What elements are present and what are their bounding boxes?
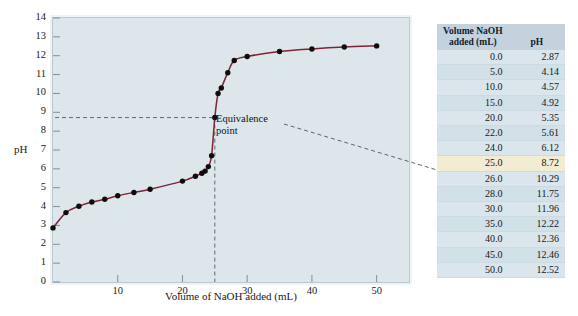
table-row: 0.02.87 (437, 50, 565, 65)
annotation-line-1: Equivalence (216, 113, 268, 125)
cell-volume: 45.0 (437, 247, 509, 262)
table-row: 35.012.22 (437, 217, 565, 232)
cell-volume: 0.0 (437, 50, 509, 65)
table-header-row: Volume NaOH added (mL) pH (437, 24, 565, 50)
cell-volume: 40.0 (437, 232, 509, 247)
cell-volume: 50.0 (437, 262, 509, 277)
table-row: 24.06.12 (437, 141, 565, 156)
x-tick-label: 30 (232, 285, 262, 296)
table-row: 25.08.72 (437, 156, 565, 171)
table-row: 28.011.75 (437, 186, 565, 201)
y-tick-label: 9 (20, 105, 46, 116)
cell-ph: 4.92 (509, 95, 565, 110)
cell-volume: 24.0 (437, 141, 509, 156)
table-row: 15.04.92 (437, 95, 565, 110)
table-row: 30.011.96 (437, 202, 565, 217)
cell-volume: 5.0 (437, 65, 509, 80)
y-tick-label: 0 (20, 275, 46, 286)
table-body: 0.02.875.04.1410.04.5715.04.9220.05.3522… (437, 50, 565, 278)
data-table-container: Volume NaOH added (mL) pH 0.02.875.04.14… (437, 24, 565, 278)
cell-volume: 35.0 (437, 217, 509, 232)
table-row: 22.05.61 (437, 126, 565, 141)
cell-volume: 30.0 (437, 202, 509, 217)
cell-volume: 28.0 (437, 186, 509, 201)
y-tick-label: 7 (20, 143, 46, 154)
y-tick-label: 6 (20, 162, 46, 173)
table-row: 5.04.14 (437, 65, 565, 80)
y-tick-label: 3 (20, 218, 46, 229)
y-tick-label: 14 (20, 11, 46, 22)
y-tick-label: 8 (20, 124, 46, 135)
titration-figure: pH Volume of NaOH added (mL) 01234567891… (0, 0, 578, 316)
y-tick-label: 11 (20, 68, 46, 79)
y-tick-label: 12 (20, 49, 46, 60)
y-tick-label: 5 (20, 181, 46, 192)
cell-ph: 12.36 (509, 232, 565, 247)
table-row: 10.04.57 (437, 80, 565, 95)
cell-volume: 22.0 (437, 126, 509, 141)
cell-volume: 10.0 (437, 80, 509, 95)
y-tick-label: 10 (20, 86, 46, 97)
cell-ph: 12.22 (509, 217, 565, 232)
chart-area: pH Volume of NaOH added (mL) 01234567891… (0, 0, 420, 316)
x-tick-label: 40 (297, 285, 327, 296)
cell-ph: 5.35 (509, 110, 565, 125)
cell-ph: 5.61 (509, 126, 565, 141)
table-row: 40.012.36 (437, 232, 565, 247)
column-header-volume-line2: added (mL) (441, 37, 505, 48)
cell-ph: 8.72 (509, 156, 565, 171)
cell-ph: 12.52 (509, 262, 565, 277)
titration-data-table: Volume NaOH added (mL) pH 0.02.875.04.14… (437, 24, 565, 278)
cell-ph: 12.46 (509, 247, 565, 262)
equivalence-point-annotation: Equivalence point (216, 113, 268, 137)
cell-volume: 26.0 (437, 171, 509, 186)
table-row: 26.010.29 (437, 171, 565, 186)
table-row: 20.05.35 (437, 110, 565, 125)
cell-volume: 15.0 (437, 95, 509, 110)
plot-frame (52, 17, 410, 283)
cell-volume: 20.0 (437, 110, 509, 125)
cell-ph: 4.57 (509, 80, 565, 95)
table-row: 45.012.46 (437, 247, 565, 262)
x-tick-label: 50 (362, 285, 392, 296)
y-tick-label: 4 (20, 200, 46, 211)
annotation-line-2: point (216, 125, 268, 137)
cell-ph: 6.12 (509, 141, 565, 156)
cell-volume: 25.0 (437, 156, 509, 171)
cell-ph: 11.96 (509, 202, 565, 217)
y-tick-label: 13 (20, 30, 46, 41)
cell-ph: 11.75 (509, 186, 565, 201)
y-tick-label: 1 (20, 256, 46, 267)
table-row: 50.012.52 (437, 262, 565, 277)
column-header-volume: Volume NaOH added (mL) (437, 24, 509, 50)
x-tick-label: 20 (167, 285, 197, 296)
cell-ph: 10.29 (509, 171, 565, 186)
x-tick-label: 10 (103, 285, 133, 296)
y-tick-label: 2 (20, 237, 46, 248)
cell-ph: 2.87 (509, 50, 565, 65)
column-header-volume-line1: Volume NaOH (441, 26, 505, 37)
cell-ph: 4.14 (509, 65, 565, 80)
column-header-ph: pH (509, 24, 565, 50)
table-header: Volume NaOH added (mL) pH (437, 24, 565, 50)
